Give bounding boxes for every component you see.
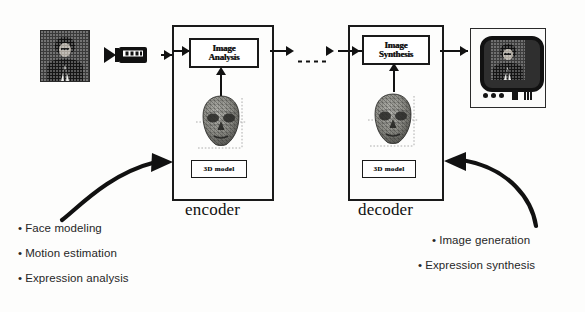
decoder-model-to-synthesis-head bbox=[389, 63, 399, 71]
decoder-wireframe-head-icon bbox=[362, 90, 424, 152]
display-control-indicators bbox=[483, 90, 532, 100]
decoder-3d-model-text: 3D model bbox=[374, 165, 405, 173]
control-block-icon bbox=[512, 90, 518, 100]
decoder-task-label-1: Image generation bbox=[439, 234, 530, 246]
channel-arrow-head-left bbox=[286, 46, 294, 56]
image-analysis-box: Image Analysis bbox=[189, 38, 259, 68]
encoder-caption: encoder bbox=[185, 200, 240, 220]
arrow-camera-to-encoder-head bbox=[164, 50, 172, 60]
encoder-3d-model-label: 3D model bbox=[191, 160, 247, 178]
control-dot-3 bbox=[499, 93, 504, 98]
decoder-task-item-2: •Expression synthesis bbox=[418, 259, 535, 271]
encoder-tasks-list: •Face modeling •Motion estimation •Expre… bbox=[18, 222, 129, 297]
video-camera-icon bbox=[103, 44, 161, 66]
encoder-task-item-1: •Face modeling bbox=[18, 222, 129, 234]
encoder-task-label-2: Motion estimation bbox=[25, 247, 117, 259]
encoder-task-item-2: •Motion estimation bbox=[18, 247, 129, 259]
decoder-tasks-list: •Image generation •Expression synthesis bbox=[418, 234, 535, 284]
television-monitor-icon bbox=[480, 36, 544, 92]
decoder-tasks-curved-arrow bbox=[440, 152, 550, 232]
encoder-task-label-1: Face modeling bbox=[25, 222, 102, 234]
control-bars-icon bbox=[524, 91, 532, 100]
image-synthesis-box: Image Synthesis bbox=[362, 35, 430, 65]
output-display-panel bbox=[470, 28, 546, 108]
control-dot-2 bbox=[491, 93, 496, 98]
diagram-canvas: Image Analysis bbox=[0, 0, 585, 312]
input-face-photo bbox=[40, 30, 90, 82]
bullet-glyph: • bbox=[432, 234, 436, 246]
arrow-decoder-to-output-head bbox=[460, 46, 468, 56]
image-synthesis-label-line2: Synthesis bbox=[379, 50, 413, 59]
decoder-task-item-1: •Image generation bbox=[432, 234, 535, 246]
encoder-model-to-analysis-head bbox=[216, 67, 226, 75]
bullet-glyph: • bbox=[18, 247, 22, 259]
encoder-task-label-3: Expression analysis bbox=[25, 272, 129, 284]
decoder-caption: decoder bbox=[358, 200, 413, 220]
bullet-glyph: • bbox=[18, 222, 22, 234]
control-dot-1 bbox=[483, 93, 488, 98]
encoder-tasks-curved-arrow bbox=[60, 150, 185, 222]
decoder-3d-model-label: 3D model bbox=[362, 160, 416, 178]
encoder-wireframe-head-icon bbox=[190, 92, 252, 154]
encoder-3d-model-text: 3D model bbox=[204, 165, 235, 173]
encoder-task-item-3: •Expression analysis bbox=[18, 272, 129, 284]
decoder-model-to-synthesis-line bbox=[393, 70, 395, 92]
bullet-glyph: • bbox=[418, 259, 422, 271]
output-screen-face bbox=[491, 40, 525, 80]
channel-arrow-head-mid bbox=[326, 46, 334, 56]
image-analysis-label-line2: Analysis bbox=[209, 53, 240, 62]
bullet-glyph: • bbox=[18, 272, 22, 284]
decoder-task-label-2: Expression synthesis bbox=[425, 259, 535, 271]
